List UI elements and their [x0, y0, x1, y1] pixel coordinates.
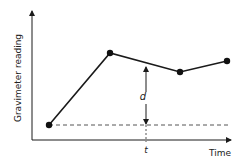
data-point	[46, 122, 52, 128]
gravimeter-drift-diagram: d t Time Gravimeter reading	[0, 0, 245, 165]
y-axis-label: Gravimeter reading	[13, 34, 23, 122]
difference-label: d	[140, 91, 147, 102]
data-point	[177, 69, 183, 75]
data-point	[107, 50, 113, 56]
x-axis-label: Time	[208, 148, 231, 158]
time-marker-label: t	[144, 145, 148, 155]
reading-line	[49, 53, 227, 125]
data-point	[224, 58, 230, 64]
